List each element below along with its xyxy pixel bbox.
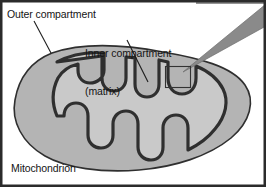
mitochondrion-diagram: Outer compartment Inner compartment (mat… — [0, 0, 266, 187]
label-inner-compartment-line1: Inner compartment — [85, 47, 171, 60]
label-mitochondrion: Mitochondrion — [11, 162, 76, 175]
label-inner-compartment: Inner compartment (matrix) — [85, 22, 171, 122]
wedge-pointer-icon — [183, 4, 266, 72]
leader-line-outer-compartment-icon — [34, 21, 51, 53]
label-outer-compartment: Outer compartment — [7, 8, 96, 21]
label-inner-compartment-line2: (matrix) — [85, 85, 171, 98]
